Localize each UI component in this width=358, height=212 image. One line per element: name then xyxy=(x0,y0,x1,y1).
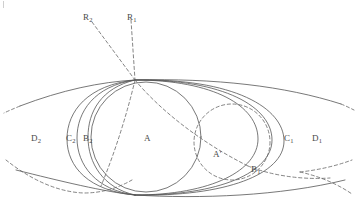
ray-R1 xyxy=(131,20,135,80)
label-region-B1: B1 xyxy=(251,165,261,174)
label-region-A-prime: A' xyxy=(213,150,222,159)
dashed-lower-right-curve xyxy=(300,172,352,194)
ray-R1-continuation xyxy=(135,80,248,166)
lens-D-right-arc xyxy=(135,80,284,195)
label-ray-R1: R1 xyxy=(127,13,137,22)
dashed-lower-right-tail xyxy=(300,160,352,172)
label-region-C1: C1 xyxy=(284,134,294,143)
label-region-B2: B2 xyxy=(83,134,93,143)
ray-R2-continuation xyxy=(101,80,135,186)
dashed-lower-left-curve xyxy=(6,160,132,193)
label-region-A: A xyxy=(144,134,151,143)
outer-envelope-upper-right xyxy=(135,80,341,104)
label-region-D2: D2 xyxy=(31,134,41,143)
geometry-canvas xyxy=(0,0,358,212)
label-region-C2: C2 xyxy=(66,134,76,143)
geometry-figure: R2 R1 D2 C2 B2 A A' B1 C1 D1 xyxy=(0,0,358,212)
label-region-D1: D1 xyxy=(312,134,322,143)
label-ray-R2: R2 xyxy=(83,13,93,22)
ray-R2 xyxy=(92,22,135,80)
dashed-extension-upper-right xyxy=(341,104,354,110)
dashed-extension-upper-left xyxy=(4,106,20,113)
